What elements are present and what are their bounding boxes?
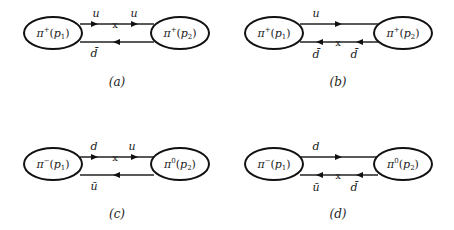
diagram-canvas: x u u d̄ π+(p1) π+(p2) (a) x u d̄ d̄ π+(… (0, 0, 454, 230)
insertion-cross-icon: x (112, 152, 118, 163)
antiquark-label: d̄ (350, 48, 359, 61)
arrow-right-icon (335, 21, 342, 27)
arrow-right-icon (131, 154, 138, 160)
antiquark-label: ū (312, 181, 319, 194)
quark-label: d (312, 140, 319, 153)
meson-label-left: π−(p1) (256, 157, 290, 172)
panel-caption: (a) (109, 75, 126, 89)
meson-label-right: π0(p2) (386, 157, 419, 172)
meson-label-left: π+(p1) (256, 26, 290, 41)
meson-label-left: π+(p1) (35, 26, 69, 41)
insertion-cross-icon: x (335, 37, 341, 48)
panel-c: x d u ū π−(p1) π0(p2) (c) (24, 140, 209, 221)
meson-label-right: π0(p2) (163, 157, 196, 172)
antiquark-label: d̄ (312, 48, 321, 61)
arrow-left-icon (316, 39, 323, 45)
arrow-right-icon (91, 21, 98, 27)
antiquark-label: d̄ (90, 47, 99, 60)
quark-label: u (92, 7, 99, 20)
quark-label: u (130, 7, 137, 20)
panel-caption: (b) (329, 75, 346, 89)
panel-caption: (d) (329, 207, 346, 221)
meson-label-left: π−(p1) (35, 157, 69, 172)
arrow-left-icon (316, 172, 323, 178)
panel-d: x d ū d̄ π−(p1) π0(p2) (d) (245, 140, 432, 221)
antiquark-label: d̄ (350, 181, 359, 194)
arrow-left-icon (113, 39, 120, 45)
arrow-right-icon (131, 21, 138, 27)
quark-label: d (90, 140, 97, 153)
arrow-left-icon (356, 172, 363, 178)
insertion-cross-icon: x (112, 19, 118, 30)
quark-label: u (312, 7, 319, 20)
antiquark-label: ū (90, 180, 97, 193)
panel-a: x u u d̄ π+(p1) π+(p2) (a) (24, 7, 209, 89)
arrow-right-icon (91, 154, 98, 160)
panel-caption: (c) (109, 207, 125, 221)
insertion-cross-icon: x (335, 170, 341, 181)
arrow-right-icon (335, 154, 342, 160)
quark-label: u (128, 140, 135, 153)
arrow-left-icon (356, 39, 363, 45)
arrow-left-icon (113, 172, 120, 178)
meson-label-right: π+(p2) (162, 26, 196, 41)
panel-b: x u d̄ d̄ π+(p1) π+(p2) (b) (245, 7, 432, 89)
meson-label-right: π+(p2) (385, 26, 419, 41)
